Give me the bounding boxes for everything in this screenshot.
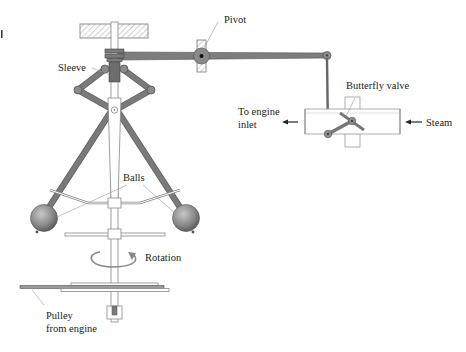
outlet-arrow-icon — [282, 120, 298, 125]
to-engine-label: To engine — [238, 106, 280, 117]
lower-crossbar — [65, 229, 165, 239]
edge-mark — [1, 30, 3, 38]
steam-arrow-icon — [405, 120, 422, 125]
bearing-base — [107, 306, 122, 319]
right-ball — [173, 205, 200, 232]
inlet-label: inlet — [238, 119, 257, 130]
flyball-governor-diagram: Pivot Sleeve Butterfly valve To engine i… — [0, 0, 466, 352]
left-ball — [31, 205, 58, 232]
sleeve — [109, 62, 120, 82]
sleeve-label: Sleeve — [58, 62, 86, 73]
pivot — [194, 40, 210, 72]
from-engine-label: from engine — [46, 323, 97, 334]
spindle-frame — [108, 98, 121, 200]
pulley — [20, 283, 169, 292]
rotation-label: Rotation — [145, 252, 182, 263]
pivot-label: Pivot — [224, 14, 246, 25]
sleeve-collar — [105, 49, 124, 62]
balls-label: Balls — [123, 172, 145, 183]
pulley-label: Pulley — [46, 310, 74, 321]
butterfly-valve-label: Butterfly valve — [346, 80, 410, 91]
lever-arm — [118, 52, 327, 60]
steam-label: Steam — [426, 117, 452, 128]
